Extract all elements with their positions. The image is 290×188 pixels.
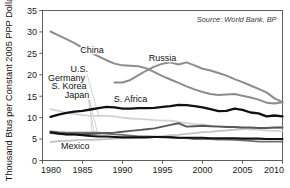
x-tick-label: 2010: [264, 165, 284, 175]
x-tick-label: 2000: [192, 165, 212, 175]
y-tick-label: 5: [32, 134, 37, 144]
x-tick-label: 1990: [112, 165, 132, 175]
y-tick-label: 30: [27, 27, 37, 37]
x-axis-tick-labels: 1980198519901995200020052010: [41, 165, 284, 175]
x-tick-label: 1995: [152, 165, 172, 175]
series-label-group: JapanJapan: [65, 90, 90, 100]
series-label-group: ChinaChina: [80, 45, 104, 55]
series-label: Japan: [65, 90, 90, 100]
y-axis-title: Thousand Btus per Constant 2005 PPP Doll…: [4, 0, 14, 181]
x-tick-label: 2005: [232, 165, 252, 175]
series-label: China: [80, 45, 104, 55]
series-label-group: S. AfricaS. Africa: [114, 94, 148, 104]
x-tick-label: 1980: [41, 165, 61, 175]
y-tick-label: 25: [27, 49, 37, 59]
y-tick-label: 10: [27, 113, 37, 123]
y-tick-label: 35: [27, 6, 37, 16]
series-label: Mexico: [61, 141, 90, 151]
chart-container: 05101520253035 1980198519901995200020052…: [0, 0, 290, 188]
y-tick-label: 15: [27, 92, 37, 102]
x-tick-label: 1985: [72, 165, 92, 175]
series-label-group: RussiaRussia: [149, 53, 177, 63]
series-label: S. Africa: [114, 94, 148, 104]
y-tick-label: 0: [32, 156, 37, 166]
line-chart: 05101520253035 1980198519901995200020052…: [0, 0, 290, 188]
series-label: Russia: [149, 53, 177, 63]
source-note: Source: World Bank, BP: [197, 15, 277, 24]
y-tick-label: 20: [27, 70, 37, 80]
series-label-group: MexicoMexico: [61, 141, 90, 151]
